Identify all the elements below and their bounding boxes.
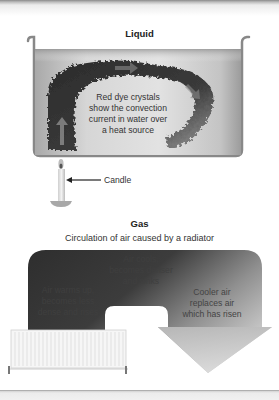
replace-air-label: Cooler air replaces air which has risen: [170, 287, 254, 320]
convection-diagram: [0, 0, 279, 400]
gas-subtitle: Circulation of air caused by a radiator: [0, 233, 279, 243]
candle-label: Candle: [104, 175, 131, 185]
dye-label-line: Red dye crystals: [78, 92, 178, 103]
replace-air-label-line: replaces air: [170, 298, 254, 309]
warm-air-label-line: dense and rises: [28, 307, 108, 318]
warm-air-label: Air warms up, becomes less dense and ris…: [28, 285, 108, 318]
candle-pointer-arrow: [66, 177, 101, 183]
cool-air-label-line: Air cools,: [96, 254, 186, 265]
bottom-border: [0, 390, 279, 400]
replace-air-label-line: Cooler air: [170, 287, 254, 298]
dye-label: Red dye crystals show the convection cur…: [78, 92, 178, 136]
radiator: [8, 330, 128, 374]
dye-label-line: a heat source: [78, 125, 178, 136]
gas-title: Gas: [0, 218, 279, 229]
dye-label-line: show the convection: [78, 103, 178, 114]
dye-label-line: current in water over: [78, 114, 178, 125]
cool-air-label-line: and sinks: [96, 276, 186, 287]
cool-air-label: Air cools, becomes denser and sinks: [96, 254, 186, 287]
candle: [50, 159, 72, 207]
replace-air-label-line: which has risen: [170, 309, 254, 320]
warm-air-label-line: becomes less: [28, 296, 108, 307]
cool-air-label-line: becomes denser: [96, 265, 186, 276]
